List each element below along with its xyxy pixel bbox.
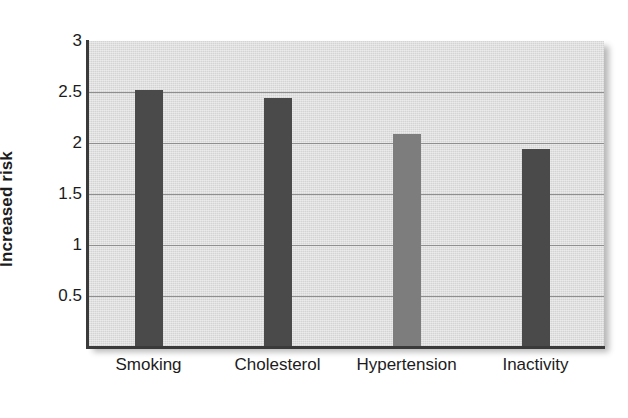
- gridline: [88, 143, 604, 144]
- y-tick-label: 0.5: [58, 286, 82, 306]
- x-tick-label: Inactivity: [502, 355, 568, 375]
- x-tick-label: Smoking: [115, 355, 181, 375]
- x-axis-tick-labels: SmokingCholesterolHypertensionInactivity: [88, 355, 604, 385]
- gridline: [88, 92, 604, 93]
- y-tick-label: 2: [73, 133, 82, 153]
- y-axis-tick-labels: 0.511.522.53: [30, 0, 82, 418]
- x-tick-label: Cholesterol: [235, 355, 321, 375]
- y-axis-line: [86, 40, 89, 349]
- bar-chart-figure: Increased risk 0.511.522.53 SmokingChole…: [0, 0, 628, 418]
- y-tick-label: 1: [73, 235, 82, 255]
- bar: [522, 149, 550, 347]
- y-tick-label: 3: [73, 31, 82, 51]
- bar: [264, 98, 292, 347]
- y-tick-label: 1.5: [58, 184, 82, 204]
- plot-area: [88, 41, 604, 347]
- bar: [135, 90, 163, 347]
- x-axis-line: [86, 346, 605, 349]
- x-tick-label: Hypertension: [356, 355, 456, 375]
- bar: [393, 134, 421, 347]
- y-tick-label: 2.5: [58, 82, 82, 102]
